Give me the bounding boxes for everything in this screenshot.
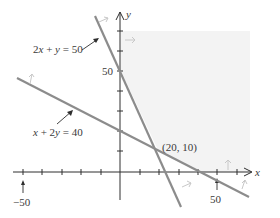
intersection-label: (20, 10): [162, 141, 197, 154]
y-axis-label: y: [125, 8, 131, 20]
svg-text:2x + y = 50: 2x + y = 50: [33, 43, 83, 55]
svg-text:−50: −50: [13, 196, 31, 208]
x-axis-label: x: [254, 166, 260, 178]
svg-text:x + 2y = 40: x + 2y = 40: [32, 126, 83, 138]
label-2x-plus-y-50: 2x + y = 50: [33, 38, 99, 55]
linear-inequalities-graph: x y 50 −50 50: [0, 0, 280, 218]
x-tick-callout-neg50: −50: [13, 180, 31, 208]
label-x-plus-2y-40: x + 2y = 40: [32, 110, 83, 138]
svg-text:50: 50: [210, 193, 222, 205]
y-tick-label-50: 50: [102, 65, 114, 77]
